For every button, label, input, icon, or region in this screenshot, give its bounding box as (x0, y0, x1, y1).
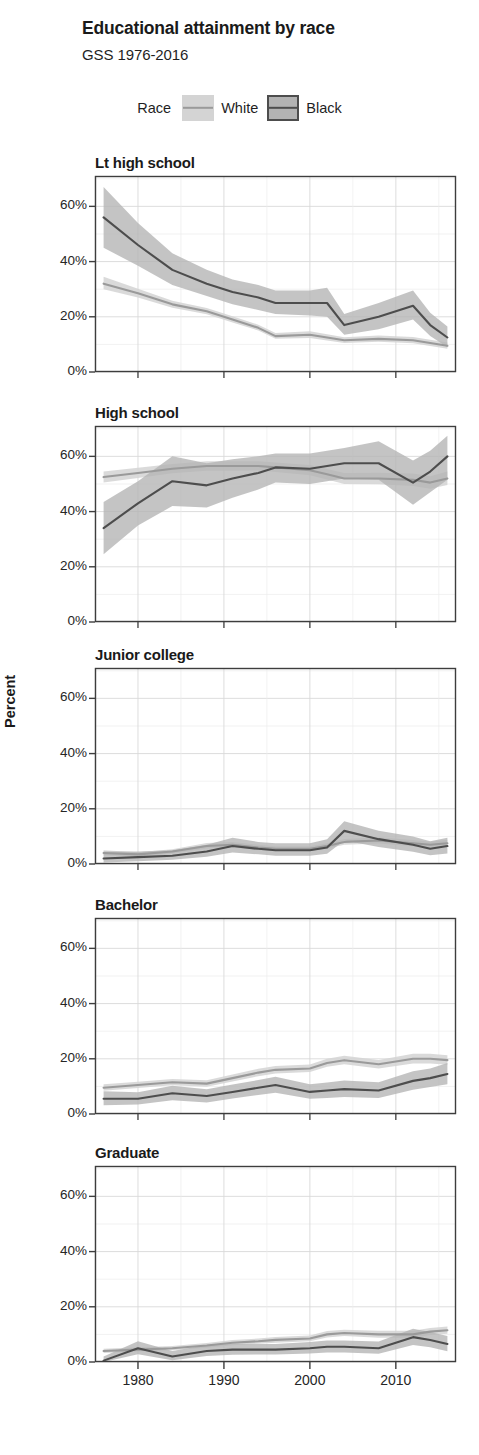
confidence-band-white (104, 1326, 448, 1353)
y-tick-label: 60% (43, 197, 87, 212)
confidence-band-white (104, 837, 448, 856)
legend-item-white[interactable]: White (182, 95, 258, 121)
panel-plot-5 (0, 0, 479, 1455)
y-tick-label: 60% (43, 689, 87, 704)
y-tick-label: 20% (43, 558, 87, 573)
series-line-white (104, 1330, 448, 1351)
panel-plot-3 (0, 0, 479, 1455)
y-tick-label: 60% (43, 939, 87, 954)
confidence-band-white (104, 1054, 448, 1091)
x-tick-label: 2010 (366, 1372, 426, 1388)
y-tick-label: 0% (43, 613, 87, 628)
y-tick-label: 60% (43, 447, 87, 462)
legend-item-black[interactable]: Black (267, 95, 341, 121)
y-tick-label: 20% (43, 800, 87, 815)
y-tick-label: 0% (43, 1105, 87, 1120)
confidence-band-black (104, 1329, 448, 1362)
panel-plot-4 (0, 0, 479, 1455)
confidence-band-black (104, 436, 448, 555)
legend-label-white: White (221, 100, 258, 116)
series-line-black (104, 217, 448, 337)
panel-plot-2 (0, 0, 479, 1455)
series-line-black (104, 1337, 448, 1360)
y-tick-label: 20% (43, 1050, 87, 1065)
x-tick-label: 1990 (194, 1372, 254, 1388)
panel-title-lt-high-school: Lt high school (95, 154, 195, 171)
panel-title-junior-college: Junior college (95, 646, 194, 663)
panel-title-graduate: Graduate (95, 1144, 159, 1161)
figure-root: Educational attainment by race GSS 1976-… (0, 0, 479, 1455)
panel-border (96, 1167, 456, 1362)
page-title: Educational attainment by race (82, 18, 335, 39)
series-line-black (104, 456, 448, 528)
legend-line-white (183, 107, 213, 109)
y-tick-label: 0% (43, 363, 87, 378)
x-tick-label: 2000 (280, 1372, 340, 1388)
plot-background (95, 918, 456, 1114)
y-tick-label: 0% (43, 1353, 87, 1368)
y-tick-label: 40% (43, 253, 87, 268)
plot-background (95, 1166, 456, 1362)
page-subtitle: GSS 1976-2016 (82, 46, 188, 63)
confidence-band-white (104, 461, 448, 488)
plot-background (95, 668, 456, 864)
y-tick-label: 40% (43, 745, 87, 760)
y-tick-label: 60% (43, 1187, 87, 1202)
series-line-white (104, 284, 448, 346)
x-tick-label: 1980 (108, 1372, 168, 1388)
series-line-white (104, 1059, 448, 1088)
plot-background (95, 426, 456, 622)
legend-line-black (269, 107, 297, 109)
y-tick-label: 20% (43, 308, 87, 323)
legend-label-black: Black (306, 100, 341, 116)
confidence-band-black (104, 821, 448, 862)
y-tick-label: 40% (43, 503, 87, 518)
panel-title-bachelor: Bachelor (95, 896, 158, 913)
series-line-black (104, 831, 448, 859)
confidence-band-white (104, 277, 448, 349)
panel-title-high-school: High school (95, 404, 179, 421)
legend-swatch-black-icon (267, 95, 299, 121)
panel-border (96, 919, 456, 1114)
y-tick-label: 0% (43, 855, 87, 870)
legend: Race White Black (0, 92, 479, 124)
y-tick-label: 40% (43, 995, 87, 1010)
series-line-white (104, 841, 448, 855)
confidence-band-black (104, 1063, 448, 1105)
y-axis-label: Percent (2, 675, 18, 728)
panel-border (96, 177, 456, 372)
series-line-white (104, 466, 448, 483)
y-tick-label: 20% (43, 1298, 87, 1313)
y-tick-label: 40% (43, 1243, 87, 1258)
panel-border (96, 427, 456, 622)
plot-background (95, 176, 456, 372)
confidence-band-black (104, 187, 448, 347)
legend-swatch-white-icon (182, 95, 214, 121)
panel-border (96, 669, 456, 864)
panel-plot-1 (0, 0, 479, 1455)
legend-title: Race (137, 100, 171, 116)
series-line-black (104, 1074, 448, 1099)
